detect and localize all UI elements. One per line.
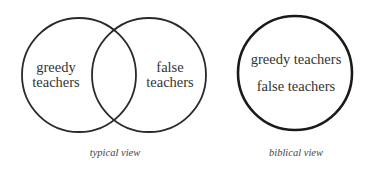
typical-right-label-line1: false [146,60,194,75]
biblical-label-line2: false teachers [257,79,336,94]
typical-left-label-line1: greedy [32,60,80,75]
biblical-circle [238,16,352,130]
typical-view-caption: typical view [90,147,140,158]
typical-left-label-line2: teachers [32,75,80,90]
typical-left-label: greedy teachers [32,60,80,90]
typical-right-label: false teachers [146,60,194,90]
biblical-label-line1: greedy teachers [251,52,342,67]
biblical-view-caption: biblical view [269,147,323,158]
typical-right-label-line2: teachers [146,75,194,90]
